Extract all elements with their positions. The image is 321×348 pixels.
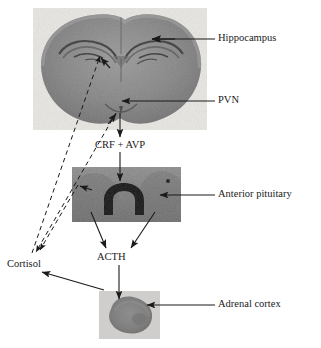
- label-hippocampus: Hippocampus: [218, 32, 276, 43]
- label-acth: ACTH: [97, 251, 126, 262]
- arrowhead-brain-feedback-target: [101, 58, 110, 68]
- label-cortisol: Cortisol: [7, 258, 41, 269]
- arrow-pituitary-to-acth-left: [91, 212, 106, 248]
- label-pvn: PVN: [218, 94, 239, 105]
- label-adrenal-cortex: Adrenal cortex: [218, 298, 281, 309]
- feedback-cortisol-to-pvn: [36, 113, 116, 252]
- label-crf-avp: CRF + AVP: [95, 139, 145, 150]
- figure-canvas: Hippocampus PVN CRF + AVP Anterior pitui…: [0, 0, 321, 348]
- connector-layer: [0, 0, 321, 348]
- arrow-pituitary-to-acth-right: [131, 212, 155, 248]
- arrow-adrenal-to-cortisol: [42, 272, 104, 290]
- feedback-cortisol-to-hippocampus: [32, 56, 100, 253]
- label-anterior-pituitary: Anterior pituitary: [218, 188, 292, 199]
- arrowhead-pvn-feedback-target: [108, 114, 116, 124]
- arrowhead-pituitary-feedback-target: [80, 186, 92, 190]
- feedback-cortisol-to-pituitary: [40, 185, 78, 250]
